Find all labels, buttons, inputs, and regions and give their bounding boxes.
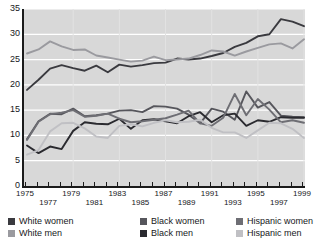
legend-swatch-icon <box>8 230 15 237</box>
x-tick <box>37 182 38 187</box>
x-tick <box>233 182 234 187</box>
y-tick-label: 5 <box>0 156 20 165</box>
x-tick <box>187 182 188 187</box>
x-tick <box>117 182 118 187</box>
x-tick-label: 1993 <box>220 199 246 207</box>
legend-label: Hispanic men <box>247 228 302 238</box>
legend-label: Black women <box>151 216 205 226</box>
x-tick-label: 1989 <box>174 199 200 207</box>
legend-swatch-icon <box>140 218 147 225</box>
y-tick-label: 15 <box>0 105 20 114</box>
x-tick-label: 1979 <box>58 190 84 198</box>
x-tick <box>279 182 280 187</box>
x-tick-label: 1995 <box>243 190 269 198</box>
y-tick-label: 20 <box>0 80 20 89</box>
x-tick-label: 1977 <box>35 199 61 207</box>
legend-swatch-icon <box>8 218 15 225</box>
legend-item[interactable]: White women <box>8 216 74 226</box>
x-tick-label: 1991 <box>197 190 223 198</box>
x-tick <box>152 182 153 187</box>
x-tick-label: 1985 <box>127 199 153 207</box>
x-tick <box>291 182 292 187</box>
x-tick <box>129 182 130 187</box>
legend-item[interactable]: Black men <box>140 228 193 238</box>
x-tick-label: 1983 <box>104 190 130 198</box>
legend-swatch-icon <box>236 218 243 225</box>
x-tick <box>210 182 211 187</box>
x-tick <box>94 182 95 187</box>
x-tick <box>256 182 257 187</box>
legend-item[interactable]: Hispanic women <box>236 216 313 226</box>
x-axis: 1975197719791981198319851987198919911993… <box>0 188 316 210</box>
x-tick-label: 1975 <box>12 190 38 198</box>
chart-container: 05101520253035 1975197719791981198319851… <box>0 0 316 245</box>
x-tick <box>25 182 26 187</box>
plot-area <box>22 9 305 186</box>
legend-label: Hispanic women <box>247 216 313 226</box>
x-tick <box>164 182 165 187</box>
x-tick <box>140 182 141 187</box>
x-tick <box>221 182 222 187</box>
y-axis: 05101520253035 <box>0 0 20 200</box>
x-tick <box>267 182 268 187</box>
chart-legend: White womenWhite menBlack womenBlack men… <box>8 216 316 240</box>
x-tick-label: 1987 <box>151 190 177 198</box>
legend-item[interactable]: White men <box>8 228 62 238</box>
plot-svg <box>24 9 307 186</box>
x-tick <box>244 182 245 187</box>
legend-label: White women <box>19 216 74 226</box>
x-tick <box>48 182 49 187</box>
x-tick <box>71 182 72 187</box>
legend-swatch-icon <box>140 230 147 237</box>
x-tick-label: 1981 <box>81 199 107 207</box>
chart-title <box>0 0 316 4</box>
y-tick-label: 10 <box>0 130 20 139</box>
legend-item[interactable]: Hispanic men <box>236 228 302 238</box>
x-tick-label: 1999 <box>289 190 315 198</box>
legend-item[interactable]: Black women <box>140 216 205 226</box>
legend-swatch-icon <box>236 230 243 237</box>
x-tick <box>175 182 176 187</box>
legend-label: Black men <box>151 228 193 238</box>
x-tick <box>106 182 107 187</box>
y-tick-label: 35 <box>0 4 20 13</box>
x-tick <box>198 182 199 187</box>
x-tick <box>83 182 84 187</box>
x-tick-label: 1997 <box>266 199 292 207</box>
y-tick-label: 30 <box>0 29 20 38</box>
x-tick <box>60 182 61 187</box>
y-tick-label: 25 <box>0 55 20 64</box>
legend-label: White men <box>19 228 62 238</box>
x-tick <box>302 182 303 187</box>
